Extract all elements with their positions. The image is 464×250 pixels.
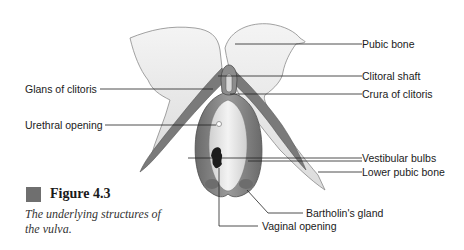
label-bartholins-gland: Bartholin's gland bbox=[306, 207, 383, 219]
label-crura-of-clitoris: Crura of clitoris bbox=[362, 88, 433, 100]
label-vaginal-opening: Vaginal opening bbox=[262, 220, 337, 232]
figure-caption: The underlying structures of the vulva. bbox=[25, 207, 175, 237]
urethral-opening-shape bbox=[217, 122, 222, 127]
bartholins-gland-shape-right bbox=[239, 179, 253, 189]
anatomy-figure: Pubic bone Clitoral shaft Glans of clito… bbox=[0, 0, 464, 250]
bartholins-gland-shape bbox=[205, 179, 219, 189]
figure-marker-square bbox=[26, 187, 41, 202]
label-pubic-bone: Pubic bone bbox=[362, 38, 415, 50]
label-clitoral-shaft: Clitoral shaft bbox=[362, 70, 420, 82]
label-glans-of-clitoris: Glans of clitoris bbox=[25, 83, 97, 95]
label-lower-pubic-bone: Lower pubic bone bbox=[362, 166, 445, 178]
clitoral-shaft-shape bbox=[226, 74, 232, 92]
label-vestibular-bulbs: Vestibular bulbs bbox=[362, 152, 436, 164]
label-urethral-opening: Urethral opening bbox=[25, 119, 103, 131]
figure-number: Figure 4.3 bbox=[50, 186, 110, 202]
